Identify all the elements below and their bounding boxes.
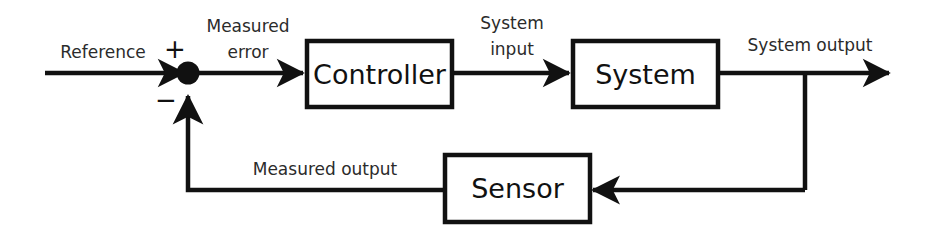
label-system-input-line1: System: [480, 13, 543, 33]
label-system-output: System output: [748, 35, 873, 55]
block-sensor-label: Sensor: [471, 173, 564, 204]
junction-plus-sign: +: [164, 34, 186, 64]
junction-minus-sign: −: [155, 85, 177, 115]
block-diagram-canvas: Controller System Sensor Reference Measu…: [0, 0, 927, 243]
label-measured-output: Measured output: [253, 159, 398, 179]
label-system-input-line2: input: [490, 39, 534, 59]
label-reference: Reference: [60, 42, 146, 62]
label-measured-error-line1: Measured: [206, 16, 289, 36]
block-system-label: System: [595, 59, 696, 90]
label-measured-error-line2: error: [227, 42, 268, 62]
summing-junction-node: [177, 62, 200, 85]
block-controller-label: Controller: [313, 59, 447, 90]
block-diagram-svg: Controller System Sensor Reference Measu…: [0, 0, 927, 243]
